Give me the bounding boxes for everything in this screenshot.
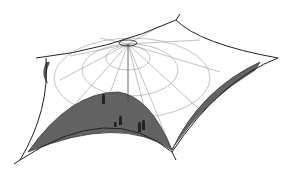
edge-cables: [14, 14, 278, 164]
shaded-underside-right: [172, 62, 260, 150]
tent-sketch: [0, 0, 292, 176]
tent-illustration: [0, 0, 292, 176]
